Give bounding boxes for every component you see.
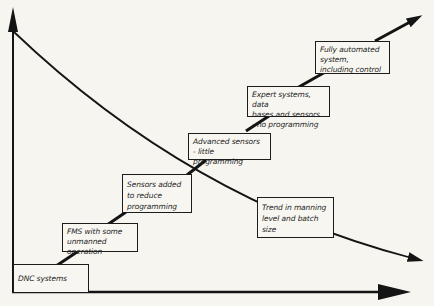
box-expert-systems: Expert systems, data bases and sensors -… xyxy=(247,86,330,117)
box-sensors-added: Sensors added to reduce programming xyxy=(122,174,192,213)
box-trend-note: Trend in manning level and batch size xyxy=(257,197,334,238)
box-dnc-systems: DNC systems xyxy=(13,264,89,293)
staircase-top-arrow xyxy=(375,22,410,41)
box-fms: FMS with some unmanned operation xyxy=(62,223,138,252)
evolution-diagram: DNC systems FMS with some unmanned opera… xyxy=(0,0,434,306)
box-fully-automated: Fully automated system, including contro… xyxy=(315,41,390,74)
box-advanced-sensors: Advanced sensors - little programming xyxy=(188,133,271,160)
